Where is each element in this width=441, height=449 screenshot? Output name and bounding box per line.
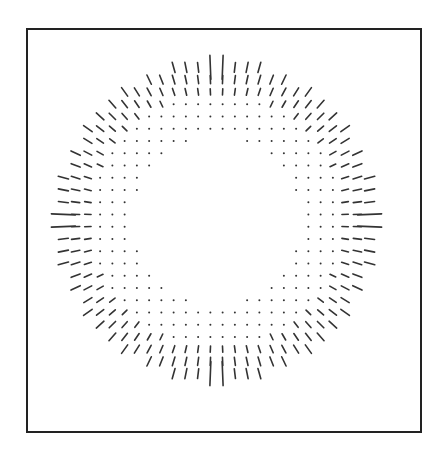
field-dot: [307, 201, 309, 203]
field-dot: [258, 311, 260, 313]
field-needle: [109, 310, 115, 315]
field-needle: [282, 75, 286, 84]
field-needle: [85, 202, 91, 203]
field-dot: [295, 189, 297, 191]
field-dot: [111, 213, 113, 215]
field-needle: [97, 274, 103, 277]
field-dot: [332, 262, 334, 264]
field-needle: [109, 333, 116, 341]
field-needle: [172, 75, 175, 84]
field-needle: [160, 357, 163, 366]
field-dot: [283, 324, 285, 326]
field-dot: [124, 287, 126, 289]
field-dot: [295, 140, 297, 142]
field-needle: [329, 126, 336, 132]
field-dot: [332, 238, 334, 240]
field-needle: [135, 101, 140, 108]
field-dot: [246, 128, 248, 130]
field-needle: [84, 151, 92, 155]
field-dot: [160, 128, 162, 130]
field-needle: [353, 151, 362, 155]
field-dot: [124, 299, 126, 301]
field-dot: [185, 140, 187, 142]
field-dot: [295, 287, 297, 289]
field-needle: [365, 238, 375, 239]
field-needle: [353, 262, 362, 265]
field-dot: [160, 299, 162, 301]
field-needle: [172, 88, 174, 95]
field-dot: [283, 115, 285, 117]
field-dot: [283, 287, 285, 289]
field-needle: [210, 362, 211, 386]
field-needle: [329, 321, 337, 328]
field-needle: [270, 334, 273, 340]
field-needle: [58, 189, 68, 191]
field-needle: [341, 164, 348, 167]
field-needle: [172, 357, 175, 366]
field-dot: [136, 311, 138, 313]
field-dot: [246, 103, 248, 105]
field-dot: [185, 324, 187, 326]
field-dot: [234, 128, 236, 130]
field-needle: [71, 164, 80, 167]
field-needle: [160, 75, 163, 84]
field-dot: [332, 177, 334, 179]
field-dot: [124, 201, 126, 203]
field-needle: [258, 88, 260, 95]
field-needle: [270, 75, 273, 84]
field-needle: [234, 62, 235, 72]
needle-field: [0, 0, 441, 449]
field-dot: [124, 213, 126, 215]
field-dot: [295, 128, 297, 130]
field-needle: [84, 274, 91, 277]
field-needle: [85, 238, 91, 239]
field-dot: [222, 324, 224, 326]
field-needle: [58, 262, 68, 265]
field-needle: [97, 310, 104, 316]
field-needle: [365, 176, 375, 179]
field-dot: [197, 311, 199, 313]
field-dot: [173, 324, 175, 326]
field-needle: [160, 334, 163, 340]
field-dot: [136, 275, 138, 277]
field-dot: [111, 287, 113, 289]
field-dot: [283, 152, 285, 154]
field-needle: [122, 310, 127, 315]
field-dot: [246, 311, 248, 313]
field-dot: [148, 311, 150, 313]
field-dot: [136, 140, 138, 142]
field-needle: [172, 346, 174, 353]
field-needle: [353, 238, 361, 239]
field-needle: [246, 369, 248, 379]
field-needle: [330, 298, 337, 303]
field-needle: [234, 346, 235, 352]
field-needle: [84, 298, 92, 303]
field-dot: [320, 238, 322, 240]
field-needle: [71, 176, 80, 179]
field-dot: [332, 226, 334, 228]
field-needle: [270, 101, 273, 107]
field-dot: [307, 177, 309, 179]
field-needle: [72, 238, 80, 239]
field-needle: [85, 189, 92, 191]
field-dot: [246, 140, 248, 142]
field-needle: [71, 286, 80, 290]
field-dot: [234, 103, 236, 105]
field-needle: [71, 262, 80, 265]
field-dot: [246, 115, 248, 117]
field-needle: [317, 321, 323, 327]
field-dot: [111, 152, 113, 154]
field-dot: [148, 275, 150, 277]
field-dot: [332, 189, 334, 191]
field-needle: [330, 151, 336, 155]
field-dot: [136, 128, 138, 130]
field-needle: [330, 164, 336, 167]
field-needle: [246, 75, 248, 83]
field-dot: [185, 115, 187, 117]
field-needle: [72, 202, 80, 203]
field-needle: [305, 88, 311, 97]
field-dot: [332, 213, 334, 215]
field-needle: [270, 357, 273, 366]
field-needle: [282, 357, 286, 366]
field-dot: [136, 250, 138, 252]
